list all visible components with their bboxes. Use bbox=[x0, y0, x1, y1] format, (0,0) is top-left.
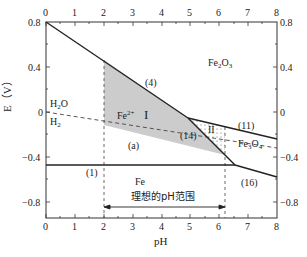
x-axis-title: pH bbox=[154, 236, 167, 247]
label-line-4: (4) bbox=[145, 78, 157, 88]
label-fe2plus: Fe2+ bbox=[117, 110, 134, 121]
label-fe3o4: Fe3O4 bbox=[238, 139, 262, 151]
y-tick-neg0.4: −0.4 bbox=[22, 153, 40, 163]
x-tick-top-2: 2 bbox=[101, 8, 106, 18]
x-tick-4: 4 bbox=[159, 222, 164, 232]
label-a: (a) bbox=[128, 141, 139, 151]
label-h2o: H2O bbox=[50, 99, 68, 111]
label-line-1: (1) bbox=[86, 168, 98, 178]
label-fe: Fe bbox=[135, 177, 145, 187]
label-line-11: (11) bbox=[238, 121, 254, 131]
y-tick-right-0.8: 0.8 bbox=[280, 18, 293, 28]
x-tick-top-8: 8 bbox=[274, 8, 279, 18]
x-tick-top-6: 6 bbox=[216, 8, 221, 18]
x-tick-6: 6 bbox=[216, 222, 221, 232]
x-tick-top-5: 5 bbox=[187, 8, 192, 18]
label-line-16: (16) bbox=[241, 178, 258, 188]
x-tick-7: 7 bbox=[245, 222, 250, 232]
x-tick-top-3: 3 bbox=[130, 8, 135, 18]
x-tick-top-7: 7 bbox=[245, 8, 250, 18]
label-region-ii: II bbox=[208, 125, 215, 135]
x-tick-top-4: 4 bbox=[159, 8, 164, 18]
x-tick-top-0: 0 bbox=[43, 8, 48, 18]
x-tick-1: 1 bbox=[72, 222, 77, 232]
x-tick-top-1: 1 bbox=[72, 8, 77, 18]
x-tick-8: 8 bbox=[274, 222, 279, 232]
label-ideal-ph-range: 理想的pH范围 bbox=[131, 192, 195, 202]
y-tick-0.4: 0.4 bbox=[28, 63, 41, 73]
y-tick-right-0.4: 0.4 bbox=[280, 63, 293, 73]
pourbaix-diagram bbox=[0, 0, 307, 257]
label-h2: H2 bbox=[50, 117, 61, 129]
x-tick-2: 2 bbox=[101, 222, 106, 232]
x-tick-0: 0 bbox=[43, 222, 48, 232]
y-tick-right-neg0.4: −0.4 bbox=[280, 153, 298, 163]
y-tick-0.8: 0.8 bbox=[28, 18, 41, 28]
y-tick-neg0.8: −0.8 bbox=[22, 198, 40, 208]
label-fe2o3: Fe2O3 bbox=[208, 58, 232, 70]
x-tick-5: 5 bbox=[187, 222, 192, 232]
y-tick-right-neg0.8: −0.8 bbox=[280, 198, 298, 208]
y-tick-0: 0 bbox=[38, 108, 43, 118]
y-axis-title: E（V） bbox=[2, 75, 13, 112]
label-line-14: (14) bbox=[180, 131, 197, 141]
y-tick-right-0: 0 bbox=[280, 108, 285, 118]
label-region-i: I bbox=[144, 108, 148, 121]
ideal-ph-range-arrow bbox=[104, 205, 225, 209]
line-16 bbox=[235, 165, 277, 177]
x-tick-3: 3 bbox=[130, 222, 135, 232]
